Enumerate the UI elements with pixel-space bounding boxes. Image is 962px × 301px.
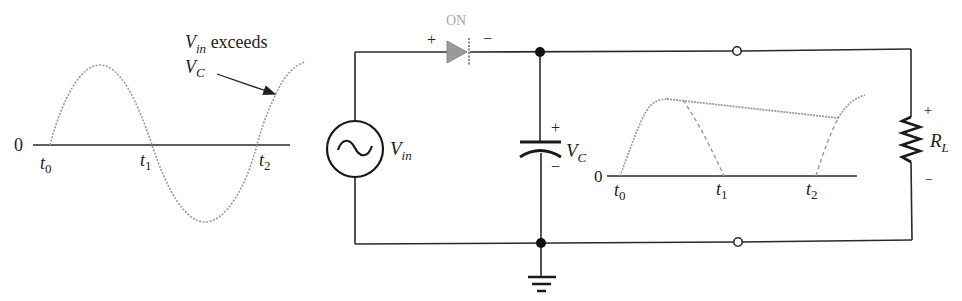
vin-exceeds-annotation: Vin exceeds — [185, 32, 268, 56]
capacitor: + − VC — [520, 119, 587, 175]
load-plus-label: + — [924, 103, 932, 118]
capacitor-plus-label: + — [551, 119, 560, 136]
output-t0-label: t0 — [614, 180, 626, 203]
input-waveform: 0 t0 t1 t2 Vin exceeds VC — [14, 32, 305, 222]
load-resistor: + − RL — [902, 103, 949, 187]
input-t1-label: t1 — [140, 150, 152, 173]
output-t2-label: t2 — [806, 179, 818, 202]
ground-symbol — [528, 277, 556, 291]
output-t1-label: t1 — [716, 179, 728, 202]
output-recharge-curve — [838, 95, 865, 118]
diode-on-label: ON — [446, 13, 466, 28]
output-input-ghost-fall — [683, 100, 724, 176]
diode-triangle-icon — [447, 41, 467, 63]
output-charge-curve — [620, 99, 667, 176]
output-terminal-top — [733, 47, 741, 55]
vin-source-label: Vin — [390, 138, 412, 163]
vc-annotation: VC — [185, 57, 205, 80]
peak-rectifier-diagram: 0 t0 t1 t2 Vin exceeds VC — [0, 0, 962, 301]
diode-plus-label: + — [427, 31, 436, 48]
input-t2-label: t2 — [259, 150, 271, 173]
input-t0-label: t0 — [40, 153, 52, 176]
junction-bottom — [536, 238, 546, 248]
diode-minus-label: − — [483, 30, 492, 47]
ac-voltage-source: Vin — [327, 121, 412, 177]
rl-label: RL — [929, 130, 949, 155]
capacitor-minus-label: − — [551, 158, 560, 175]
output-input-ghost-rise — [816, 118, 838, 176]
diode: ON + − — [427, 13, 492, 65]
load-minus-label: − — [925, 172, 933, 187]
input-sine-curve — [50, 62, 305, 222]
circuit — [355, 49, 912, 276]
output-terminal-bottom — [734, 238, 742, 246]
junction-top — [535, 47, 545, 57]
vc-capacitor-label: VC — [566, 140, 587, 165]
input-origin-label: 0 — [14, 135, 23, 155]
output-origin-label: 0 — [594, 167, 603, 186]
output-waveform: 0 t0 t1 t2 — [594, 95, 865, 203]
annotation-arrow — [217, 74, 275, 94]
